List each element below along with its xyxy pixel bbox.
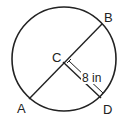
circle bbox=[12, 7, 116, 111]
point-label-c: C bbox=[52, 50, 61, 65]
circle-diagram: 8 in B C A D bbox=[0, 0, 123, 121]
point-label-d: D bbox=[103, 102, 112, 117]
point-label-b: B bbox=[104, 10, 113, 25]
measurement-label: 8 in bbox=[82, 71, 101, 85]
point-label-a: A bbox=[17, 101, 26, 116]
